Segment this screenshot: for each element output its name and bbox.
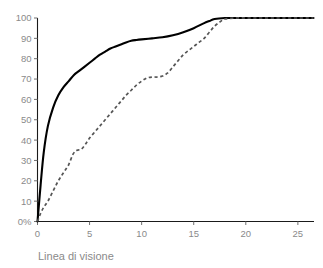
x-tick-label: 0 [35,228,40,239]
y-tick-label: 100 [16,12,32,23]
y-tick-label: 60 [21,94,32,105]
y-tick-label: 10 [21,196,32,207]
x-tick-label: 15 [188,228,199,239]
y-axis-ticks: 0%102030405060708090100 [16,12,38,227]
x-axis-ticks: 0510152025 [35,222,303,239]
line-chart: 0%102030405060708090100 0510152025 Linea… [0,0,323,268]
x-axis-title: Linea di visione [38,250,114,262]
x-tick-label: 10 [136,228,147,239]
series-line-solid [38,18,314,222]
x-tick-label: 5 [87,228,92,239]
y-tick-label: 0% [18,216,32,227]
y-tick-label: 50 [21,114,32,125]
y-tick-label: 20 [21,175,32,186]
series-line-dashed [38,18,314,222]
y-tick-label: 40 [21,135,32,146]
y-tick-label: 70 [21,73,32,84]
y-tick-label: 80 [21,53,32,64]
x-tick-label: 25 [293,228,304,239]
y-tick-label: 30 [21,155,32,166]
y-tick-label: 90 [21,33,32,44]
x-tick-label: 20 [241,228,252,239]
chart-container: 0%102030405060708090100 0510152025 Linea… [0,0,323,268]
